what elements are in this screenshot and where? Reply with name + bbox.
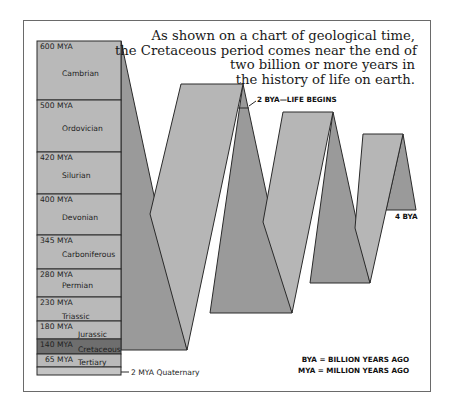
period-name-label: Triassic bbox=[61, 312, 90, 321]
period-mya-label: 345 MYA bbox=[40, 236, 74, 245]
period-mya-label: 500 MYA bbox=[40, 101, 74, 110]
period-name-label: Jurassic bbox=[77, 330, 107, 339]
legend: BYA = BILLION YEARS AGO MYA = MILLION YE… bbox=[298, 354, 409, 376]
period-mya-label: 400 MYA bbox=[40, 195, 74, 204]
period-mya-label: 140 MYA bbox=[40, 340, 74, 349]
period-name-label: Cretaceous bbox=[78, 345, 121, 354]
caption-line: the history of life on earth. bbox=[115, 73, 415, 88]
end-label: 4 BYA bbox=[395, 212, 418, 221]
legend-mya: MYA = MILLION YEARS AGO bbox=[298, 365, 409, 376]
period-mya-label: 230 MYA bbox=[40, 298, 74, 307]
period-name-label: Carboniferous bbox=[62, 250, 115, 259]
life-begins-label: 2 BYA—LIFE BEGINS bbox=[257, 95, 337, 104]
period-name-label: Tertiary bbox=[77, 358, 107, 367]
period-name-label: Silurian bbox=[62, 171, 91, 180]
period-name-label: Devonian bbox=[62, 213, 98, 222]
legend-bya: BYA = BILLION YEARS AGO bbox=[298, 354, 409, 365]
caption-line: the Cretaceous period comes near the end… bbox=[115, 44, 415, 59]
period-mya-label: 180 MYA bbox=[40, 322, 74, 331]
period-name-label: Permian bbox=[62, 281, 93, 290]
life-begins-leader bbox=[249, 101, 256, 106]
period-mya-label: 600 MYA bbox=[40, 42, 74, 51]
period-name-label: Ordovician bbox=[62, 124, 103, 133]
quaternary-band bbox=[37, 367, 121, 375]
period-mya-label: 420 MYA bbox=[40, 153, 74, 162]
period-mya-label: 280 MYA bbox=[40, 270, 74, 279]
caption-line: two billion or more years in bbox=[115, 58, 415, 73]
caption-line: As shown on a chart of geological time, bbox=[115, 29, 415, 44]
period-column: 600 MYACambrian500 MYAOrdovician420 MYAS… bbox=[37, 41, 121, 375]
caption: As shown on a chart of geological time, … bbox=[115, 29, 415, 87]
period-mya-label: 65 MYA bbox=[45, 355, 74, 364]
period-name-label: Cambrian bbox=[62, 69, 99, 78]
quaternary-label: 2 MYA Quaternary bbox=[131, 368, 200, 377]
